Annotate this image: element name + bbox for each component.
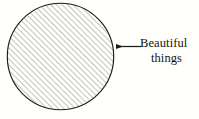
figure-canvas: Beautiful things [0,0,199,119]
hatched-circle [7,3,113,109]
circle-hatch-fill [8,4,114,110]
callout-label: Beautiful things [140,36,199,65]
callout-label-line-2: things [140,51,199,66]
callout-label-line-1: Beautiful [140,36,199,51]
